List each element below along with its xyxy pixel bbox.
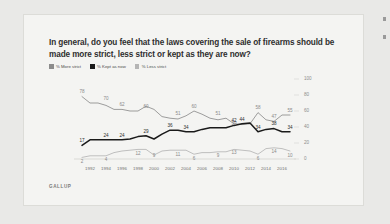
data-label: 70 bbox=[103, 96, 109, 101]
chart-legend: % More strict % Kept as now % Less stric… bbox=[49, 64, 166, 69]
data-label: 12 bbox=[135, 151, 141, 156]
data-label: 47 bbox=[271, 114, 277, 119]
data-label: 6 bbox=[193, 156, 196, 161]
legend-label-more-strict: % More strict bbox=[56, 64, 81, 69]
data-label: 9 bbox=[217, 153, 220, 158]
data-label: 24 bbox=[103, 133, 109, 138]
data-label: 2 bbox=[81, 159, 84, 164]
y-axis-tick: 20 bbox=[304, 140, 309, 145]
chart-card: In general, do you feel that the laws co… bbox=[23, 14, 364, 206]
legend-label-kept-as-now: % Kept as now bbox=[97, 64, 126, 69]
legend-item-more-strict[interactable]: % More strict bbox=[49, 64, 81, 69]
data-label: 10 bbox=[287, 153, 293, 158]
edge-mark-2 bbox=[383, 35, 386, 39]
data-label: 60 bbox=[191, 104, 197, 109]
data-label: 34 bbox=[287, 125, 293, 130]
page-edge-marker bbox=[383, 17, 386, 39]
data-label: 6 bbox=[257, 156, 260, 161]
data-label: 78 bbox=[79, 89, 85, 94]
chart-title: In general, do you feel that the laws co… bbox=[49, 37, 344, 60]
plot-area: 7870626051605139584755172424293634424434… bbox=[38, 73, 333, 173]
legend-item-kept-as-now[interactable]: % Kept as now bbox=[90, 64, 126, 69]
data-label: 34 bbox=[183, 125, 189, 130]
y-axis-tick: 100 bbox=[304, 76, 312, 81]
line-chart-svg: 7870626051605139584755172424293634424434… bbox=[38, 73, 333, 173]
legend-swatch-kept-as-now bbox=[90, 64, 95, 69]
source-label: GALLUP bbox=[49, 184, 71, 189]
y-axis-tick: 0 bbox=[304, 156, 307, 161]
data-label: 51 bbox=[215, 111, 221, 116]
y-axis-tick: 60 bbox=[304, 108, 309, 113]
data-label: 55 bbox=[287, 108, 293, 113]
data-label: 13 bbox=[231, 150, 237, 155]
data-label: 24 bbox=[119, 133, 125, 138]
legend-swatch-more-strict bbox=[49, 64, 54, 69]
y-axis-tick: 40 bbox=[304, 124, 309, 129]
data-label: 44 bbox=[239, 117, 245, 122]
data-label: 11 bbox=[176, 152, 181, 157]
data-label: 58 bbox=[255, 105, 261, 110]
y-axis-tick: 80 bbox=[304, 92, 309, 97]
data-label: 14 bbox=[271, 149, 277, 154]
data-label: 42 bbox=[231, 118, 237, 123]
data-label: 34 bbox=[255, 125, 261, 130]
data-label: 51 bbox=[175, 111, 181, 116]
data-label: 60 bbox=[143, 104, 149, 109]
data-label: 17 bbox=[79, 138, 85, 143]
legend-label-less-strict: % Less strict bbox=[142, 64, 166, 69]
data-label: 62 bbox=[119, 102, 125, 107]
data-label: 4 bbox=[105, 157, 108, 162]
legend-swatch-less-strict bbox=[135, 64, 140, 69]
data-label: 9 bbox=[153, 153, 156, 158]
data-label: 36 bbox=[167, 123, 173, 128]
data-label: 29 bbox=[143, 129, 149, 134]
series-line-more-strict bbox=[82, 97, 290, 125]
edge-mark-1 bbox=[383, 17, 386, 21]
data-label: 38 bbox=[271, 121, 277, 126]
x-axis-tick: 2016 bbox=[271, 166, 293, 171]
legend-item-less-strict[interactable]: % Less strict bbox=[135, 64, 166, 69]
